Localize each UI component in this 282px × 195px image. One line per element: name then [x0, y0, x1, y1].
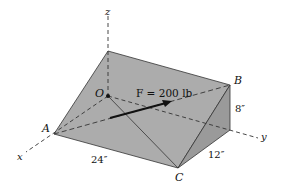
- a-label: A: [41, 122, 50, 135]
- force-label: F = 200 lb: [136, 87, 192, 99]
- z-label: z: [104, 6, 111, 17]
- dim-width: 12″: [208, 149, 225, 160]
- origin-dot: [106, 94, 110, 98]
- wedge-diagram: z x y O A B C F = 200 lb 8″ 12″ 24″: [0, 0, 282, 195]
- y-label: y: [260, 131, 267, 142]
- o-label: O: [95, 87, 104, 100]
- b-label: B: [233, 74, 242, 87]
- dim-length: 24″: [91, 154, 108, 165]
- x-label: x: [17, 151, 23, 162]
- dim-height: 8″: [235, 103, 245, 114]
- c-label: C: [175, 171, 184, 184]
